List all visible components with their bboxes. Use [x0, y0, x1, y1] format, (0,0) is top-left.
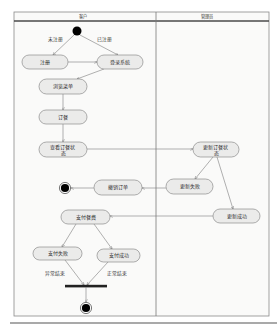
action-cancel-order: 撤销订单	[94, 180, 142, 195]
action-view-status-line2: 态	[61, 150, 66, 156]
diagram-svg: 客户 管理员 未注册 已注册 异常结束 正常结束	[0, 0, 277, 325]
action-browse-menu-label: 浏览菜单	[53, 83, 73, 90]
action-register: 注册	[22, 55, 68, 69]
action-pay: 支付餐费	[61, 210, 110, 224]
action-order: 订餐	[39, 110, 87, 124]
action-update-failed-label: 更新失败	[180, 183, 200, 190]
action-order-label: 订餐	[58, 114, 68, 121]
action-register-label: 注册	[40, 59, 50, 66]
final-node-cancel-icon	[59, 182, 70, 193]
activity-diagram: 客户 管理员 未注册 已注册 异常结束 正常结束	[0, 0, 277, 325]
action-update-success-label: 更新成功	[227, 213, 247, 220]
action-pay-failed-label: 支付失败	[48, 250, 68, 257]
action-pay-success: 支付成功	[97, 249, 140, 262]
lane-title-admin: 管理员	[201, 13, 213, 20]
image-bottom-border	[10, 322, 277, 324]
action-update-status: 更新订餐状 态	[193, 142, 239, 157]
label-normal-end: 正常结束	[107, 270, 127, 277]
action-cancel-order-label: 撤销订单	[108, 184, 128, 191]
action-pay-failed: 支付失败	[33, 247, 82, 260]
guard-unregistered: 未注册	[48, 36, 63, 43]
initial-node-icon	[73, 27, 82, 36]
action-login-label: 登录系统	[110, 59, 130, 66]
guard-registered: 已注册	[97, 36, 112, 43]
action-view-status: 查看订餐状 态	[39, 142, 87, 157]
action-update-status-line2: 态	[214, 150, 219, 156]
action-pay-label: 支付餐费	[76, 214, 96, 221]
action-browse-menu: 浏览菜单	[39, 79, 87, 94]
action-login: 登录系统	[97, 55, 143, 69]
lane-title-customer: 客户	[79, 13, 87, 20]
label-abnormal-end: 异常结束	[45, 270, 65, 277]
final-node-end-icon	[80, 302, 91, 313]
action-update-success: 更新成功	[213, 209, 260, 223]
action-pay-success-label: 支付成功	[109, 252, 129, 259]
action-update-failed: 更新失败	[166, 179, 213, 194]
join-bar	[65, 285, 107, 288]
